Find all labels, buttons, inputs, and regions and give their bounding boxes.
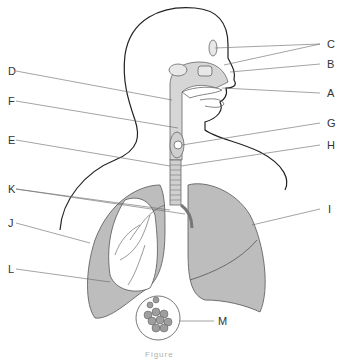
left-lung	[188, 184, 265, 312]
label-c: C	[327, 39, 335, 50]
tongue	[182, 87, 222, 98]
sphenoid-sinus	[169, 64, 187, 76]
figure-caption: Figure	[145, 350, 174, 359]
label-g: G	[327, 118, 336, 129]
label-f: F	[8, 96, 15, 107]
label-j: J	[8, 218, 14, 229]
trachea	[170, 160, 181, 205]
label-b: B	[327, 59, 334, 70]
respiratory-system-diagram	[0, 0, 342, 363]
label-i: I	[328, 204, 331, 215]
label-d: D	[8, 66, 16, 77]
label-e: E	[8, 135, 15, 146]
label-h: H	[327, 140, 335, 151]
leader-lines	[16, 44, 320, 321]
label-m: M	[218, 316, 227, 327]
maxillary-sinus	[198, 66, 212, 76]
thyroid-cartilage	[174, 141, 182, 149]
label-a: A	[327, 88, 334, 99]
label-k: K	[8, 184, 15, 195]
label-l: L	[8, 264, 14, 275]
